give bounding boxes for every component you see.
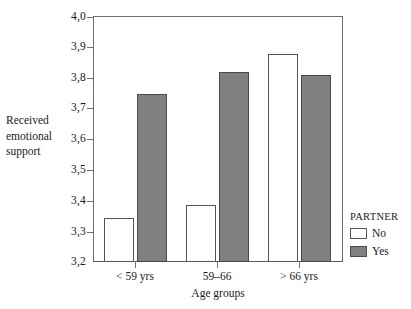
legend-title: PARTNER: [350, 211, 410, 222]
y-tick-label: 3,9: [59, 40, 86, 52]
x-tick-label-group-2: 59–66: [177, 270, 257, 282]
x-tick-label-group-1: < 59 yrs: [95, 270, 175, 282]
bar-no-group-1[interactable]: [104, 218, 134, 262]
y-tick-label: 3,5: [59, 163, 86, 175]
y-tick-label: 3,4: [59, 194, 86, 206]
y-axis-title: Received emotional support: [6, 113, 82, 160]
y-tick-label: 4,0: [59, 10, 86, 22]
y-tick-label: 3,3: [59, 225, 86, 237]
bar-yes-group-3[interactable]: [301, 75, 331, 262]
bar-yes-group-1[interactable]: [137, 94, 167, 262]
x-tick-label-group-3: > 66 yrs: [259, 270, 339, 282]
x-tick-mark: [135, 262, 136, 268]
plot-area: [93, 16, 343, 262]
legend-item-yes[interactable]: Yes: [350, 244, 410, 258]
chart-legend: PARTNER No Yes: [350, 211, 410, 262]
legend-swatch-no-icon: [350, 228, 367, 239]
x-axis-title: Age groups: [93, 287, 343, 299]
legend-swatch-yes-icon: [350, 246, 367, 257]
legend-label-no: No: [372, 227, 386, 239]
y-axis-title-line-3: support: [6, 144, 82, 160]
y-axis-title-line-1: Received: [6, 113, 82, 129]
y-tick-label: 3,7: [59, 101, 86, 113]
bar-yes-group-2[interactable]: [219, 72, 249, 262]
x-tick-mark: [299, 262, 300, 268]
bar-chart-figure: 4,0 3,9 3,8 3,7 3,6 3,5 3,4 3,3 3,2 Rece…: [0, 0, 411, 309]
legend-label-yes: Yes: [372, 245, 389, 257]
y-tick-label: 3,2: [59, 255, 86, 267]
bar-no-group-3[interactable]: [268, 54, 298, 262]
y-tick-label: 3,8: [59, 71, 86, 83]
bar-no-group-2[interactable]: [186, 205, 216, 262]
legend-item-no[interactable]: No: [350, 226, 410, 240]
y-axis-title-line-2: emotional: [6, 129, 82, 145]
x-tick-mark: [217, 262, 218, 268]
